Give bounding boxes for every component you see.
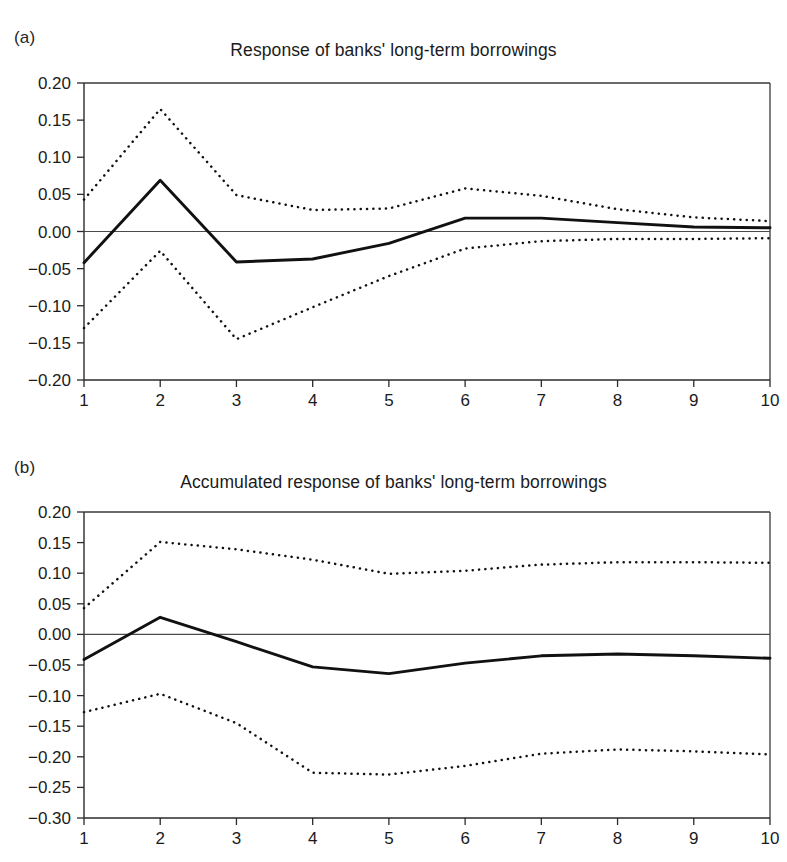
series-line-dotted-1 [84,109,770,221]
x-tick-label: 6 [460,829,469,848]
panel-a-plot: 0.200.150.100.050.00−0.05−0.10−0.15−0.20… [0,0,787,432]
x-tick-label: 5 [384,829,393,848]
series-line-dotted-2 [84,694,770,775]
y-tick-label: −0.05 [28,260,71,279]
y-tick-label: 0.00 [38,223,71,242]
y-tick-label: 0.10 [38,564,71,583]
x-tick-label: 8 [613,391,622,410]
x-tick-label: 6 [460,391,469,410]
x-tick-label: 3 [232,391,241,410]
x-tick-label: 9 [689,829,698,848]
series-line-solid [84,180,770,262]
x-tick-label: 1 [79,829,88,848]
x-tick-label: 10 [761,829,780,848]
series-line-dotted-2 [84,238,770,339]
x-tick-label: 2 [155,829,164,848]
series-line-dotted-1 [84,542,770,608]
y-tick-label: 0.05 [38,595,71,614]
panel-a-svg: 0.200.150.100.050.00−0.05−0.10−0.15−0.20… [0,0,787,432]
y-tick-label: −0.15 [28,334,71,353]
x-tick-label: 4 [308,391,317,410]
panel-b-svg: 0.200.150.100.050.00−0.05−0.10−0.15−0.20… [0,430,787,862]
y-tick-label: −0.15 [28,717,71,736]
y-tick-label: −0.30 [28,809,71,828]
y-tick-label: 0.00 [38,625,71,644]
x-tick-label: 10 [761,391,780,410]
x-tick-label: 9 [689,391,698,410]
y-tick-label: −0.25 [28,778,71,797]
y-tick-label: 0.15 [38,534,71,553]
x-tick-label: 7 [537,829,546,848]
y-tick-label: 0.05 [38,185,71,204]
y-tick-label: 0.10 [38,148,71,167]
y-tick-label: −0.20 [28,748,71,767]
panel-b: (b) Accumulated response of banks' long-… [0,430,787,862]
x-tick-label: 8 [613,829,622,848]
panel-a: (a) Response of banks' long-term borrowi… [0,0,787,432]
x-tick-label: 4 [308,829,317,848]
y-tick-label: 0.20 [38,503,71,522]
x-tick-label: 1 [79,391,88,410]
y-tick-label: 0.20 [38,74,71,93]
x-tick-label: 3 [232,829,241,848]
y-tick-label: −0.10 [28,687,71,706]
y-tick-label: −0.10 [28,297,71,316]
x-tick-label: 2 [155,391,164,410]
y-tick-label: −0.05 [28,656,71,675]
x-tick-label: 5 [384,391,393,410]
y-tick-label: 0.15 [38,111,71,130]
series-line-solid [84,617,770,673]
figure-impulse-response: (a) Response of banks' long-term borrowi… [0,0,787,862]
y-tick-label: −0.20 [28,371,71,390]
x-tick-label: 7 [537,391,546,410]
panel-b-plot: 0.200.150.100.050.00−0.05−0.10−0.15−0.20… [0,430,787,862]
